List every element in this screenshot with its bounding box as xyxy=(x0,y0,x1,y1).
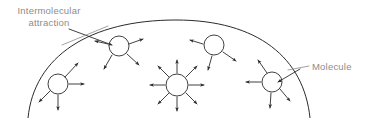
molecule-interior-center xyxy=(150,60,204,111)
force-arrow-down xyxy=(270,93,271,108)
force-arrow-down-left xyxy=(39,91,50,102)
force-arrow-down-left xyxy=(104,55,112,69)
liquid-surface-arc xyxy=(28,20,310,118)
force-arrow-down-right xyxy=(223,52,236,61)
force-arrow-up-right xyxy=(65,63,78,77)
molecule-circle xyxy=(204,35,224,55)
molecule-surface-right xyxy=(246,60,290,108)
label-intermolecular-line1: Intermolecular xyxy=(7,5,91,17)
force-arrow-up-right xyxy=(258,60,267,73)
force-arrow-left xyxy=(190,40,203,44)
force-arrow-down-right xyxy=(127,54,139,65)
force-arrow-up-left xyxy=(158,66,169,77)
leader-intermolecular-attraction xyxy=(69,29,112,45)
molecule-surface-upper-right xyxy=(190,35,236,70)
label-molecule: Molecule xyxy=(312,61,352,73)
molecule-circle xyxy=(262,72,282,92)
label-intermolecular-line2: attraction xyxy=(7,17,91,29)
force-arrow-up-right xyxy=(186,66,197,77)
force-arrow-down xyxy=(208,56,212,70)
force-arrow-down-right xyxy=(280,89,290,101)
label-intermolecular-attraction: Intermolecular attraction xyxy=(7,5,91,28)
force-arrow-down-left xyxy=(158,93,169,104)
intermolecular-attraction-diagram: Intermolecular attraction Molecule xyxy=(0,0,368,118)
molecule-circle xyxy=(109,36,129,56)
force-arrow-down-right xyxy=(186,93,197,104)
force-arrow-right xyxy=(129,39,143,44)
